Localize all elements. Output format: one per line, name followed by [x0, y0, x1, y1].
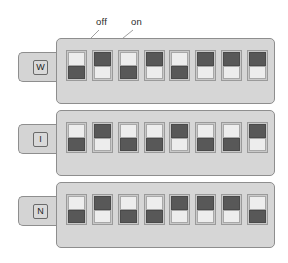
switch-bank-w: W — [0, 38, 288, 104]
switch-actuator-bottom — [171, 66, 188, 80]
switch-actuator-top — [223, 196, 240, 210]
bank-tab-letterbox-w: W — [33, 60, 48, 75]
bank-tab-label-w: W — [36, 63, 45, 72]
switch-actuator-bottom — [197, 66, 214, 80]
switch-actuator-top — [223, 52, 240, 66]
switch-w-4[interactable] — [144, 50, 165, 81]
switch-w-3[interactable] — [118, 50, 139, 81]
switch-actuator-bottom — [197, 210, 214, 224]
switch-w-8[interactable] — [247, 50, 268, 81]
switch-actuator-bottom — [146, 138, 163, 152]
dip-switch-diagram: off on W — [0, 0, 288, 263]
switch-n-7[interactable] — [221, 194, 242, 225]
switch-actuator-bottom — [249, 210, 266, 224]
switch-n-2[interactable] — [92, 194, 113, 225]
switch-actuator-bottom — [94, 210, 111, 224]
switch-actuator-top — [223, 124, 240, 138]
annotation-label-off: off — [96, 17, 107, 27]
switch-actuator-top — [146, 196, 163, 210]
switch-i-3[interactable] — [118, 122, 139, 153]
switch-actuator-bottom — [120, 138, 137, 152]
switch-actuator-top — [68, 124, 85, 138]
switch-actuator-bottom — [146, 66, 163, 80]
switch-actuator-top — [197, 52, 214, 66]
switch-i-7[interactable] — [221, 122, 242, 153]
switch-bank-n: N — [0, 182, 288, 248]
switch-i-2[interactable] — [92, 122, 113, 153]
switch-i-6[interactable] — [195, 122, 216, 153]
switch-actuator-bottom — [94, 138, 111, 152]
bank-tab-label-i: I — [39, 135, 42, 144]
switch-actuator-top — [94, 196, 111, 210]
switch-actuator-bottom — [146, 210, 163, 224]
switch-strip-i — [66, 122, 268, 153]
annotation-label-on: on — [131, 17, 142, 27]
switch-actuator-bottom — [68, 210, 85, 224]
switch-actuator-bottom — [120, 66, 137, 80]
switch-i-8[interactable] — [247, 122, 268, 153]
switch-i-5[interactable] — [169, 122, 190, 153]
switch-actuator-bottom — [249, 138, 266, 152]
switch-strip-n — [66, 194, 268, 225]
bank-body-i — [56, 110, 275, 176]
switch-actuator-bottom — [223, 138, 240, 152]
bank-body-n — [56, 182, 275, 248]
switch-actuator-top — [197, 196, 214, 210]
switch-actuator-bottom — [171, 138, 188, 152]
switch-actuator-bottom — [223, 210, 240, 224]
switch-actuator-top — [120, 196, 137, 210]
switch-actuator-bottom — [171, 210, 188, 224]
switch-actuator-top — [249, 52, 266, 66]
switch-w-7[interactable] — [221, 50, 242, 81]
switch-w-1[interactable] — [66, 50, 87, 81]
switch-n-3[interactable] — [118, 194, 139, 225]
switch-actuator-bottom — [197, 138, 214, 152]
switch-actuator-top — [146, 52, 163, 66]
switch-actuator-top — [120, 52, 137, 66]
switch-actuator-top — [197, 124, 214, 138]
switch-actuator-top — [120, 124, 137, 138]
switch-bank-i: I — [0, 110, 288, 176]
switch-actuator-top — [249, 124, 266, 138]
switch-actuator-top — [68, 52, 85, 66]
switch-w-6[interactable] — [195, 50, 216, 81]
switch-w-2[interactable] — [92, 50, 113, 81]
switch-actuator-top — [94, 52, 111, 66]
switch-w-5[interactable] — [169, 50, 190, 81]
switch-actuator-top — [249, 196, 266, 210]
switch-actuator-bottom — [68, 138, 85, 152]
bank-tab-label-n: N — [37, 207, 44, 216]
switch-actuator-bottom — [68, 66, 85, 80]
bank-tab-letterbox-i: I — [33, 132, 48, 147]
switch-actuator-bottom — [94, 66, 111, 80]
switch-n-5[interactable] — [169, 194, 190, 225]
switch-actuator-top — [68, 196, 85, 210]
switch-strip-w — [66, 50, 268, 81]
bank-tab-letterbox-n: N — [33, 204, 48, 219]
switch-n-1[interactable] — [66, 194, 87, 225]
switch-n-8[interactable] — [247, 194, 268, 225]
switch-actuator-top — [146, 124, 163, 138]
switch-actuator-bottom — [223, 66, 240, 80]
switch-actuator-top — [171, 124, 188, 138]
switch-actuator-top — [94, 124, 111, 138]
switch-n-6[interactable] — [195, 194, 216, 225]
switch-i-4[interactable] — [144, 122, 165, 153]
switch-actuator-top — [171, 52, 188, 66]
switch-actuator-bottom — [120, 210, 137, 224]
switch-actuator-bottom — [249, 66, 266, 80]
switch-n-4[interactable] — [144, 194, 165, 225]
bank-body-w — [56, 38, 275, 104]
switch-actuator-top — [171, 196, 188, 210]
switch-i-1[interactable] — [66, 122, 87, 153]
